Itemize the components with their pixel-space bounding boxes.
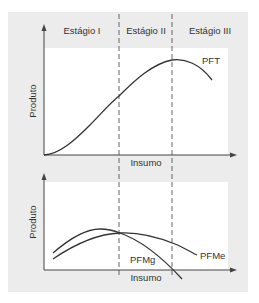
top-y-axis-label: Produto bbox=[27, 84, 38, 117]
bottom-x-axis-label: Insumo bbox=[130, 272, 161, 283]
pfmg-label: PFMg bbox=[130, 254, 155, 265]
stage-3-label: Estágio III bbox=[189, 25, 231, 36]
production-stages-diagram: Estágio I Estágio II Estágio III Produto… bbox=[0, 0, 259, 303]
bottom-y-axis-label: Produto bbox=[27, 205, 38, 238]
stage-1-label: Estágio I bbox=[64, 25, 101, 36]
stage-2-label: Estágio II bbox=[126, 25, 166, 36]
pfme-label: PFMe bbox=[200, 250, 225, 261]
pft-label: PFT bbox=[202, 55, 220, 66]
top-plot-area bbox=[44, 48, 228, 155]
top-x-axis-label: Insumo bbox=[130, 157, 161, 168]
